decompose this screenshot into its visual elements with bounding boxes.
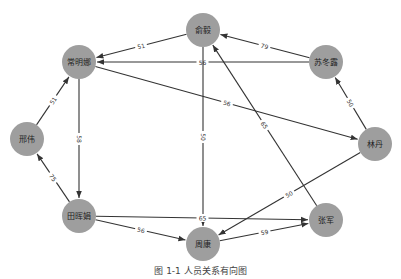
svg-text:58: 58 (76, 135, 83, 143)
edge-weight-label: 51 (46, 93, 59, 107)
node-sudonglu: 苏冬露 (309, 45, 343, 79)
svg-text:65: 65 (199, 214, 207, 221)
node-label: 邢伟 (19, 134, 35, 144)
edge-sudonglu-to-yuyi: 79 (220, 35, 309, 58)
edge-weight-label: 50 (282, 188, 296, 201)
node-label: 林丹 (367, 139, 383, 149)
edge-yuyi-to-zhoukang: 50 (199, 47, 207, 226)
edge-weight-label: 51 (134, 41, 148, 52)
node-label: 俞毅 (195, 25, 211, 35)
edge-weight-label: 58 (75, 133, 83, 145)
node-label: 周康 (195, 239, 211, 249)
svg-text:59: 59 (260, 228, 269, 236)
figure-caption: 图 1-1 人员关系有向图 (0, 264, 401, 277)
edge-lindan-to-sudonglu: 50 (335, 77, 366, 129)
node-label: 田晖娟 (67, 211, 91, 221)
edge-weight-label: 65 (258, 118, 271, 132)
node-zhangjun: 张军 (309, 203, 343, 237)
edge-weight-label: 50 (199, 131, 207, 143)
node-label: 张军 (318, 216, 334, 225)
edge-weight-label: 56 (134, 225, 147, 235)
edge-tianhuijuan-to-zhoukang: 56 (96, 220, 186, 240)
edge-zhangjun-to-yuyi: 65 (213, 45, 317, 206)
edge-yuyi-to-changmingna: 51 (96, 34, 186, 57)
edge-weight-label: 75 (46, 170, 59, 184)
edge-xingwei-to-changmingna: 51 (37, 77, 69, 125)
edge-weight-label: 79 (258, 41, 272, 52)
node-lindan: 林丹 (358, 127, 392, 161)
edge-tianhuijuan-to-xingwei: 75 (37, 154, 69, 202)
node-zhoukang: 周康 (186, 227, 220, 261)
node-label: 苏冬露 (314, 57, 338, 67)
edge-weight-label: 65 (196, 214, 208, 222)
node-changmingna: 常明娜 (62, 45, 96, 79)
relationship-graph: 5156567950517558506550655659 常明娜俞毅苏冬露林丹邢… (0, 0, 401, 279)
edge-changmingna-to-lindan: 56 (95, 67, 357, 140)
node-label: 常明娜 (67, 57, 91, 67)
node-tianhuijuan: 田晖娟 (62, 199, 96, 233)
edge-changmingna-to-tianhuijuan: 58 (75, 79, 83, 198)
node-xingwei: 邢伟 (10, 122, 44, 156)
node-yuyi: 俞毅 (186, 13, 220, 47)
svg-text:50: 50 (200, 133, 207, 141)
edge-weight-label: 50 (344, 96, 357, 110)
edge-weight-label: 56 (220, 98, 234, 109)
edge-weight-label: 59 (258, 227, 271, 237)
edge-tianhuijuan-to-zhangjun: 65 (96, 214, 308, 222)
